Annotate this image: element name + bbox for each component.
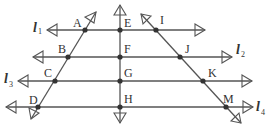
label-g: G (124, 66, 133, 80)
point-c (52, 78, 57, 83)
svg-text:l: l (256, 99, 260, 114)
svg-text:4: 4 (261, 108, 265, 117)
svg-text:l: l (4, 71, 8, 86)
label-i: I (160, 13, 164, 27)
label-l2: l 2 (236, 42, 245, 59)
label-l1: l 1 (33, 20, 42, 36)
label-l3: l 3 (4, 71, 13, 89)
svg-text:1: 1 (38, 27, 42, 36)
label-d: D (29, 93, 38, 107)
svg-text:3: 3 (9, 80, 13, 89)
point-b (65, 54, 70, 59)
label-m: M (223, 92, 234, 106)
label-b: B (58, 42, 66, 56)
point-e (117, 27, 122, 32)
label-c: C (44, 66, 52, 80)
label-l4: l 4 (256, 99, 265, 117)
point-a (82, 27, 87, 32)
parallel-lines-diagram: A B C D E F G H I J K M l 1 l 2 l 3 l 4 (0, 0, 271, 128)
label-j: J (185, 42, 190, 56)
point-i (153, 27, 158, 32)
label-k: K (208, 66, 217, 80)
point-f (117, 54, 122, 59)
point-h (117, 104, 122, 109)
svg-text:2: 2 (241, 50, 245, 59)
svg-text:l: l (236, 42, 240, 57)
label-a: A (73, 16, 82, 30)
point-g (117, 78, 122, 83)
point-k (200, 78, 205, 83)
label-f: F (124, 42, 131, 56)
label-e: E (124, 16, 131, 30)
point-j (177, 54, 182, 59)
label-h: H (124, 92, 133, 106)
svg-text:l: l (33, 20, 37, 35)
